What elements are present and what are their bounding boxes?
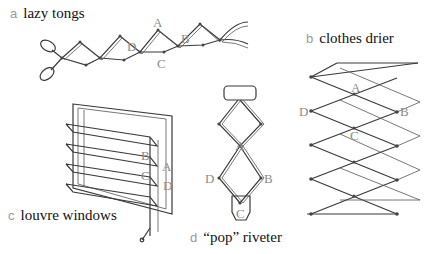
panel-letter-a: a bbox=[10, 6, 17, 21]
panel-title-b: clothes drier bbox=[319, 30, 394, 46]
caption-lazy-tongs: alazy tongs bbox=[10, 5, 84, 22]
clothes-drier-point-a: A bbox=[351, 80, 360, 96]
riveter-point-d: D bbox=[205, 171, 214, 187]
lazy-tongs-point-d: D bbox=[127, 39, 136, 55]
louvre-point-b: B bbox=[141, 148, 150, 164]
lazy-tongs-point-b: B bbox=[181, 31, 190, 47]
caption-clothes-drier: bclothes drier bbox=[306, 30, 394, 47]
lazy-tongs-point-a: A bbox=[153, 15, 162, 31]
lazy-tongs-drawing bbox=[38, 22, 248, 83]
louvre-point-c: C bbox=[141, 168, 150, 184]
clothes-drier-drawing bbox=[307, 63, 420, 216]
panel-title-a: lazy tongs bbox=[23, 5, 84, 21]
clothes-drier-point-c: C bbox=[350, 128, 359, 144]
louvre-point-a: A bbox=[162, 159, 171, 175]
clothes-drier-point-d: D bbox=[299, 104, 308, 120]
lazy-tongs-point-c: C bbox=[157, 56, 166, 72]
clothes-drier-point-b: B bbox=[400, 104, 409, 120]
panel-letter-d: d bbox=[190, 230, 197, 245]
riveter-point-c: C bbox=[236, 206, 245, 222]
panel-title-c: louvre windows bbox=[21, 207, 117, 223]
caption-pop-riveter: d“pop” riveter bbox=[190, 229, 282, 246]
riveter-point-b: B bbox=[264, 171, 273, 187]
caption-louvre-windows: clouvre windows bbox=[8, 207, 117, 224]
panel-letter-c: c bbox=[8, 208, 15, 223]
panel-letter-b: b bbox=[306, 31, 313, 46]
louvre-point-d: D bbox=[163, 178, 172, 194]
riveter-point-a: A bbox=[235, 138, 244, 154]
panel-title-d: “pop” riveter bbox=[203, 229, 282, 245]
